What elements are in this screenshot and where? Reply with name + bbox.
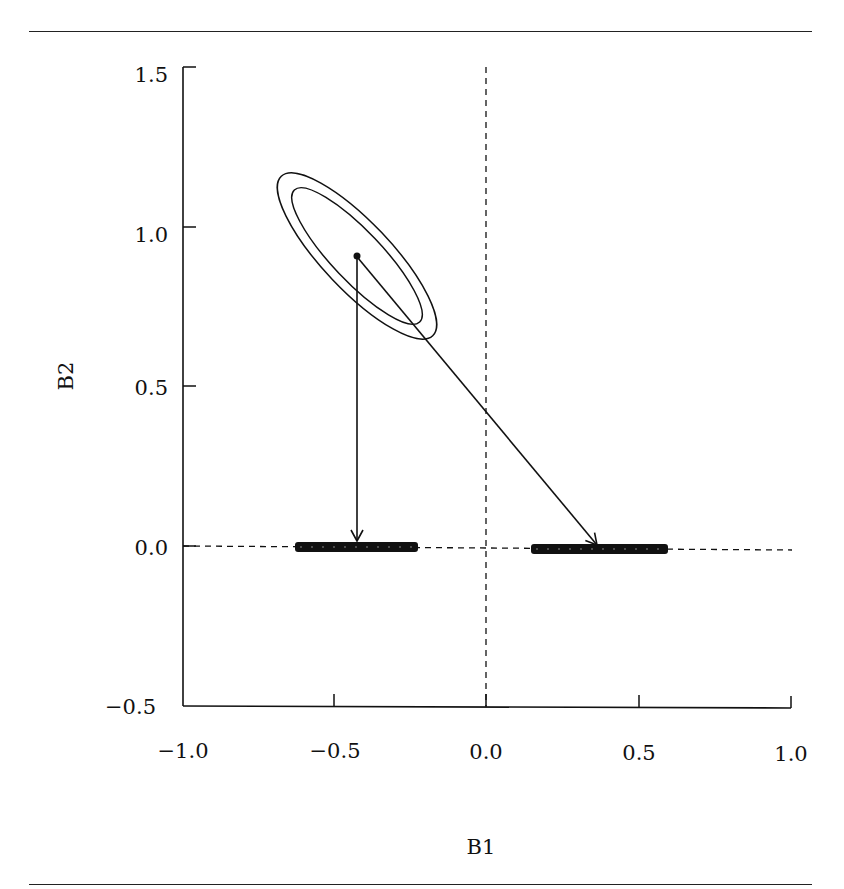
x-tick-neg0.5: −0.5 <box>310 739 361 763</box>
y-tick-0.0: 0.0 <box>135 536 168 560</box>
x-tick-1.0: 1.0 <box>774 742 807 766</box>
x-axis <box>183 694 791 708</box>
y-tick-1.0: 1.0 <box>135 223 168 247</box>
x-tick-labels: −1.0 −0.5 0.0 0.5 1.0 <box>158 739 808 766</box>
chart-plot: 1.5 1.0 0.5 0.0 −0.5 −1.0 −0.5 0.0 0.5 1… <box>0 0 844 889</box>
oblique-projection-arrow <box>358 258 597 545</box>
y-tick-labels: 1.5 1.0 0.5 0.0 −0.5 <box>105 63 168 719</box>
y-tick-0.5: 0.5 <box>135 376 168 400</box>
point-estimate-dot <box>354 253 361 260</box>
y-tick-neg0.5: −0.5 <box>105 695 156 719</box>
y-tick-1.5: 1.5 <box>135 63 168 87</box>
x-tick-0.5: 0.5 <box>622 741 655 765</box>
horizontal-reference-line <box>183 546 792 550</box>
y-axis-label: B2 <box>54 362 78 391</box>
y-axis <box>183 67 196 706</box>
x-tick-neg1.0: −1.0 <box>158 739 209 763</box>
x-axis-label: B1 <box>467 835 496 859</box>
x-tick-0.0: 0.0 <box>469 740 502 764</box>
projection-arrows <box>357 257 597 545</box>
